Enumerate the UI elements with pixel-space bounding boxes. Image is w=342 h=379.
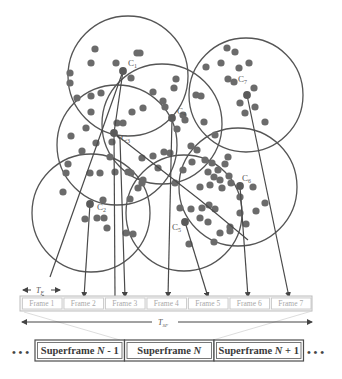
sensor-node xyxy=(211,131,218,138)
sensor-node xyxy=(250,84,257,91)
link-c5-to-frame-5 xyxy=(185,222,208,297)
sensor-node xyxy=(82,124,89,131)
sensor-node xyxy=(106,153,113,160)
sensor-node xyxy=(217,59,224,66)
cluster-head-c5 xyxy=(181,218,189,226)
sensor-node xyxy=(91,45,98,52)
sensor-node xyxy=(226,227,233,234)
sensor-node xyxy=(112,59,119,66)
sensor-node xyxy=(66,79,73,86)
sensor-node xyxy=(224,153,231,160)
ellipsis-left: • • • xyxy=(12,346,29,358)
sensor-node xyxy=(134,184,141,191)
frame-label: Frame 3 xyxy=(112,299,137,308)
sensor-node xyxy=(197,92,204,99)
superframe-current: Superframe N xyxy=(125,340,215,361)
sensor-node xyxy=(204,168,211,175)
sensor-node xyxy=(204,218,211,225)
sensor-node xyxy=(249,183,256,190)
sensor-node xyxy=(128,108,135,115)
superframe-label: Superframe N - 1 xyxy=(41,345,119,356)
sensor-node xyxy=(187,205,194,212)
sensor-node xyxy=(251,103,258,110)
frame-label: Frame 6 xyxy=(237,299,262,308)
sensor-node xyxy=(97,89,104,96)
superframe-label: Superframe N xyxy=(137,345,201,356)
cluster-head-c6 xyxy=(236,182,244,190)
sensor-node xyxy=(181,116,188,123)
sensor-node xyxy=(87,92,94,99)
sensor-node xyxy=(224,75,231,82)
sensor-node xyxy=(211,205,218,212)
frame-label: Frame 4 xyxy=(154,299,179,308)
sensor-node xyxy=(96,169,103,176)
sensor-node xyxy=(166,149,173,156)
sensor-node xyxy=(93,214,100,221)
sensor-node xyxy=(81,215,88,222)
frame-slot-4: Frame 4 xyxy=(147,298,187,309)
sensor-node xyxy=(73,94,80,101)
cluster-head-label-c7: C7 xyxy=(238,74,247,85)
sensor-node xyxy=(64,160,71,167)
superframe-period-indicator: TSF xyxy=(22,311,312,340)
cluster-head-c2 xyxy=(86,200,94,208)
frame-slot-7: Frame 7 xyxy=(272,298,312,309)
sensor-node xyxy=(227,179,234,186)
sensor-node xyxy=(225,172,232,179)
sensor-node xyxy=(161,103,168,110)
sensor-node xyxy=(252,207,259,214)
frame-label: Frame 2 xyxy=(71,299,96,308)
relay-link xyxy=(114,133,115,297)
sensor-node xyxy=(187,142,194,149)
sensor-node xyxy=(87,108,94,115)
sensor-node xyxy=(139,104,146,111)
sensor-node xyxy=(231,48,238,55)
sensor-node xyxy=(196,214,203,221)
cluster-head-label-c4: C4 xyxy=(177,106,186,117)
sensor-node xyxy=(201,156,208,163)
cluster-head-c4 xyxy=(168,114,176,122)
frame-slot-3: Frame 3 xyxy=(106,298,146,309)
frame-label: Frame 1 xyxy=(29,299,54,308)
cluster-head-label-c6: C6 xyxy=(242,173,251,184)
sensor-node xyxy=(160,148,167,155)
superframes-row: • • • Superframe N - 1Superframe NSuperf… xyxy=(12,340,324,361)
cluster-head-c3 xyxy=(110,129,118,137)
link-c7-to-frame-7 xyxy=(247,95,289,297)
sensor-node xyxy=(198,204,205,211)
cluster-circle-c3 xyxy=(57,85,177,205)
cluster-head-label-c3: C3 xyxy=(121,133,130,144)
sensor-node xyxy=(214,166,221,173)
frame-slot-6: Frame 6 xyxy=(230,298,270,309)
sensor-node xyxy=(200,118,207,125)
cluster-head-label-c5: C5 xyxy=(172,222,181,233)
sensor-node xyxy=(236,193,243,200)
sensor-node xyxy=(100,214,107,221)
ellipsis-right: • • • xyxy=(307,346,324,358)
sensor-node xyxy=(193,146,200,153)
sensor-node xyxy=(236,99,243,106)
sensor-node xyxy=(124,168,131,175)
frame-period-label: TF xyxy=(36,286,44,296)
sensor-node xyxy=(149,152,156,159)
cluster-heads: C1C2C3C4C5C6C7 xyxy=(86,58,251,233)
frame-slot-2: Frame 2 xyxy=(64,298,104,309)
sensor-node xyxy=(170,84,177,91)
sensor-node xyxy=(149,88,156,95)
sensor-node xyxy=(188,158,195,165)
sensor-node xyxy=(59,188,66,195)
sensor-node xyxy=(66,69,73,76)
sensor-node xyxy=(179,166,186,173)
sensor-node xyxy=(223,44,230,51)
cluster-tdma-diagram: C1C2C3C4C5C6C7 TF Frame 1Frame 2Frame 3F… xyxy=(0,0,342,379)
superframe-previous: Superframe N - 1 xyxy=(35,340,125,361)
sensor-node xyxy=(210,238,217,245)
sensor-node xyxy=(235,64,242,71)
sensor-node xyxy=(241,109,248,116)
link-c6-to-frame-6 xyxy=(240,186,248,297)
sensor-node xyxy=(87,59,94,66)
sensor-node xyxy=(173,125,180,132)
sensor-node xyxy=(111,168,118,175)
cluster-head-c1 xyxy=(119,67,127,75)
frame-label: Frame 5 xyxy=(195,299,220,308)
